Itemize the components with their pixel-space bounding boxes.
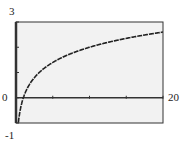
plot-area: [0, 0, 184, 149]
plot-frame: [16, 22, 163, 123]
